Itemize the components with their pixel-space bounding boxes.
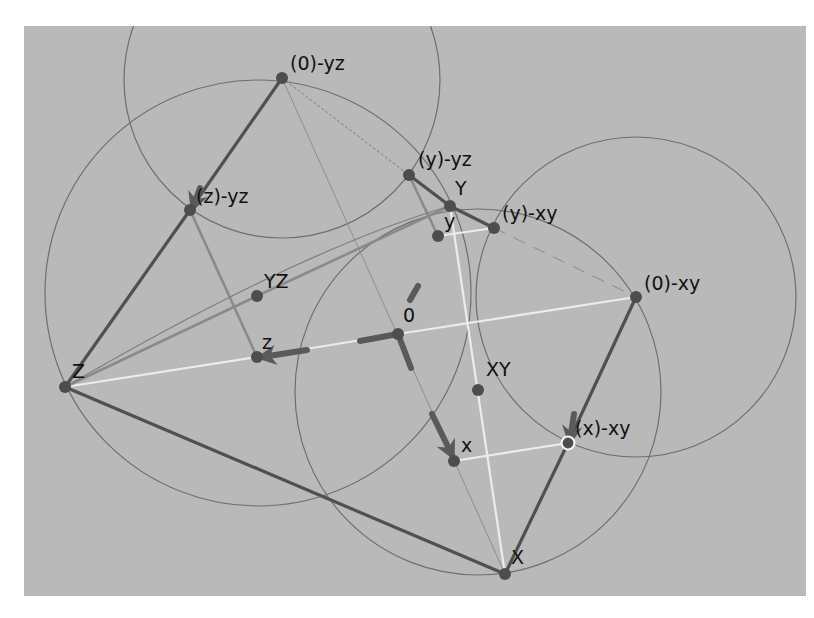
point-pyxy[interactable] — [488, 222, 500, 234]
label-pxxy: (x)-xy — [575, 417, 630, 439]
point-pZ[interactable] — [59, 381, 71, 393]
point-py[interactable] — [432, 230, 444, 242]
edge-Z-YZ[interactable] — [65, 296, 257, 387]
arrow-x-icon[interactable] — [432, 414, 452, 455]
construction-diagram[interactable]: (0)-yz(z)-yzZYZz0(y)-yzYy(y)-xy(0)-xyXYx… — [24, 26, 806, 596]
point-pzyz[interactable] — [184, 204, 196, 216]
edge-0-0xy[interactable] — [398, 297, 636, 334]
point-pxxy-selected[interactable] — [562, 437, 575, 450]
geometry-canvas[interactable]: (0)-yz(z)-yzZYZz0(y)-yzYy(y)-xy(0)-xyXYx… — [24, 26, 806, 596]
edge-Z-X[interactable] — [65, 387, 505, 574]
point-pyyz[interactable] — [403, 169, 415, 181]
label-p0xy: (0)-xy — [644, 272, 700, 294]
edge-yxy-0xy[interactable] — [494, 228, 636, 297]
label-p0: 0 — [403, 304, 415, 326]
axis-y-stub[interactable] — [410, 286, 418, 300]
circles-layer — [45, 26, 796, 575]
label-p0yz: (0)-yz — [290, 52, 345, 74]
label-py: y — [444, 210, 455, 232]
label-pyxy: (y)-xy — [502, 202, 557, 224]
label-px: x — [461, 434, 472, 456]
edge-zyz-z[interactable] — [190, 210, 257, 357]
point-p0[interactable] — [392, 328, 404, 340]
label-pY: Y — [454, 177, 467, 199]
points-layer — [59, 72, 642, 580]
label-pZ: Z — [72, 360, 85, 382]
point-px[interactable] — [448, 455, 460, 467]
point-p0xy[interactable] — [630, 291, 642, 303]
point-pYZ[interactable] — [251, 290, 263, 302]
circle-top[interactable] — [124, 26, 440, 238]
label-pyyz: (y)-yz — [418, 148, 472, 170]
point-pX[interactable] — [499, 568, 511, 580]
label-pz: z — [262, 331, 272, 353]
label-pX: X — [511, 546, 524, 568]
point-pXY[interactable] — [472, 384, 484, 396]
label-pYZ: YZ — [263, 270, 289, 292]
label-pXY: XY — [486, 358, 511, 380]
point-p0yz[interactable] — [276, 72, 288, 84]
edges-layer — [65, 78, 636, 574]
label-pzyz: (z)-yz — [196, 185, 249, 207]
